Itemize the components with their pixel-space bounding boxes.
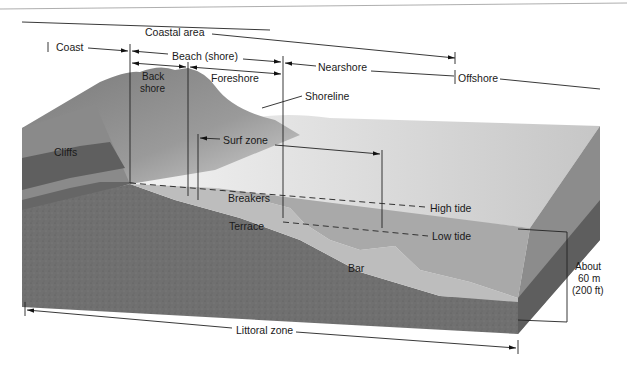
- label-depth: About60 m(200 ft): [572, 261, 604, 296]
- label-foreshore: Foreshore: [211, 72, 259, 84]
- label-offshore: Offshore: [458, 72, 498, 84]
- label-coast: Coast: [56, 41, 84, 53]
- label-low-tide: Low tide: [432, 230, 471, 242]
- label-shoreline: Shoreline: [305, 90, 350, 102]
- label-cliffs: Cliffs: [54, 146, 77, 158]
- label-coastal-area: Coastal area: [145, 26, 205, 38]
- label-bar: Bar: [348, 262, 365, 274]
- label-surf-zone: Surf zone: [223, 134, 268, 146]
- label-breakers: Breakers: [228, 192, 270, 204]
- label-nearshore: Nearshore: [318, 61, 367, 73]
- label-high-tide: High tide: [430, 202, 472, 214]
- label-back-shore: Backshore: [140, 71, 165, 94]
- coastal-zone-diagram: Coastal area Coast Beach (shore) Backsho…: [0, 0, 627, 369]
- top-rule: [0, 3, 627, 9]
- label-littoral-zone: Littoral zone: [236, 324, 293, 336]
- label-beach-shore: Beach (shore): [172, 50, 238, 62]
- label-terrace: Terrace: [229, 220, 264, 232]
